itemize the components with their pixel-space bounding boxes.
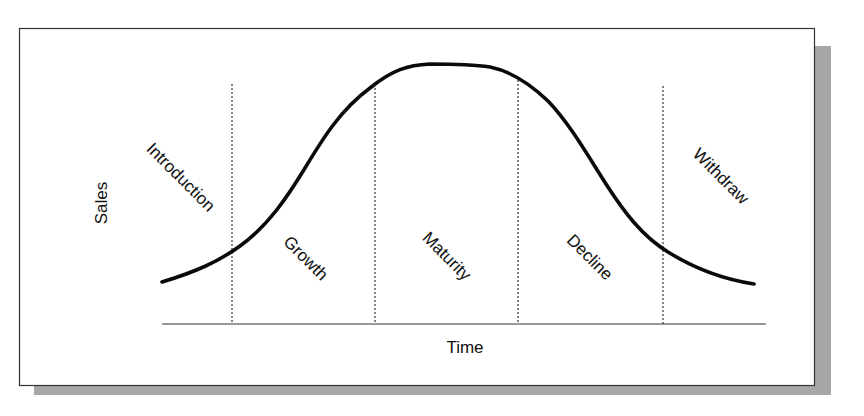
diagram-frame xyxy=(20,29,815,386)
frame-shadow-right xyxy=(814,46,831,395)
x-axis-label: Time xyxy=(446,338,483,357)
frame-shadow-bottom xyxy=(34,385,831,395)
product-life-cycle-diagram: Sales Introduction Growth Maturity Decli… xyxy=(0,0,864,416)
y-axis-label: Sales xyxy=(92,182,111,225)
